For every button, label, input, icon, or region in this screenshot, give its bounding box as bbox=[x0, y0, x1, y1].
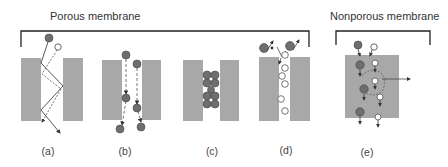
nonporous-bracket bbox=[336, 31, 430, 45]
panel-c bbox=[183, 60, 239, 121]
small-molecule bbox=[55, 44, 61, 50]
panel-a bbox=[21, 34, 83, 133]
panel-label-b: (b) bbox=[119, 145, 132, 157]
pore-wall-left bbox=[21, 58, 41, 121]
panel-label-a: (a) bbox=[42, 145, 55, 157]
panel-b bbox=[102, 51, 161, 133]
large-molecule bbox=[45, 34, 53, 42]
small-molecule-path bbox=[42, 50, 61, 122]
panel-e bbox=[345, 41, 410, 127]
membrane-transport-diagram bbox=[0, 0, 448, 167]
panel-label-c: (c) bbox=[206, 145, 218, 157]
pore-wall-right bbox=[63, 58, 83, 121]
panel-label-e: (e) bbox=[361, 146, 374, 158]
panel-label-d: (d) bbox=[280, 144, 293, 156]
panel-d bbox=[259, 40, 310, 121]
rejected-large-molecule bbox=[260, 44, 269, 53]
